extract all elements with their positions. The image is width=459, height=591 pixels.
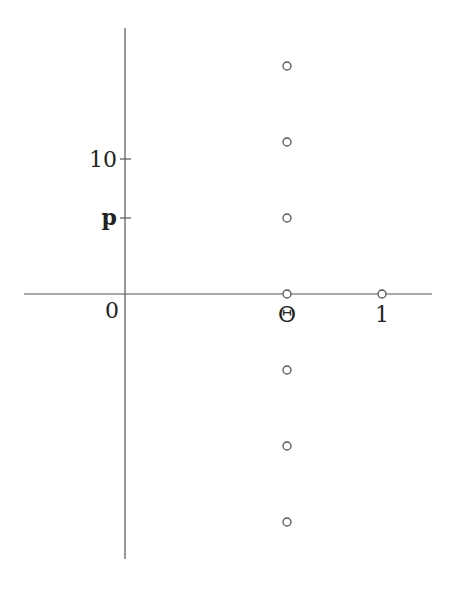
data-point (283, 290, 291, 298)
x-tick-label-1: 1 (375, 302, 389, 327)
data-point (378, 290, 386, 298)
origin-label: 0 (105, 298, 119, 323)
scatter-plot: 10 p 0 Θ 1 (0, 0, 459, 591)
data-point (283, 214, 291, 222)
data-point (283, 442, 291, 450)
data-point (283, 138, 291, 146)
y-tick-label-p: p (102, 204, 117, 230)
data-point (283, 366, 291, 374)
x-tick-label-theta: Θ (278, 302, 296, 327)
data-point (283, 518, 291, 526)
data-point (283, 62, 291, 70)
y-tick-label-10: 10 (89, 147, 117, 172)
